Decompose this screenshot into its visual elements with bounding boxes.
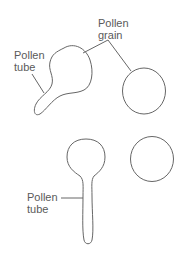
pollen-tube-bottom-label-line1: Pollen	[27, 191, 58, 203]
pollen-tube-bottom-label-line2: tube	[27, 203, 58, 215]
pollen-tube-bottom-label: Pollen tube	[27, 191, 58, 215]
pollen-tube-top-label-line2: tube	[14, 61, 45, 73]
pollen-grain-label-line1: Pollen	[98, 17, 129, 29]
pollen-grain-label: Pollen grain	[98, 17, 129, 41]
pollen-grain-label-line2: grain	[98, 29, 129, 41]
pollen-grain-circle-bottom	[131, 137, 174, 182]
germinating-pollen-long-tube	[67, 139, 105, 244]
pollen-grain-leader	[83, 40, 131, 71]
pollen-tube-top-leader	[32, 74, 44, 93]
pollen-tube-top-label: Pollen tube	[14, 49, 45, 73]
pollen-grain-circle-top	[123, 68, 166, 114]
pollen-tube-top-label-line1: Pollen	[14, 49, 45, 61]
diagram-drawing	[0, 0, 186, 261]
pollen-diagram: Pollen grain Pollen tube Pollen tube	[0, 0, 186, 261]
